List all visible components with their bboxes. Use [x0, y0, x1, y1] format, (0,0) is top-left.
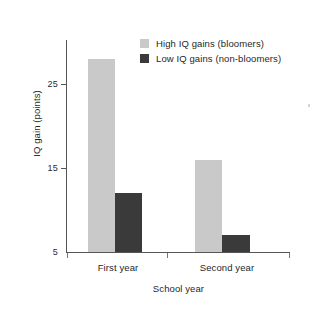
x-category-label-first-year: First year — [78, 262, 158, 273]
x-tick-right — [289, 253, 290, 258]
x-axis-line — [66, 252, 290, 253]
bar-first-year-low-iq-gains — [115, 193, 142, 252]
y-tick-label-5: 5 — [18, 247, 58, 257]
bar-second-year-high-iq-gains — [195, 160, 222, 252]
x-tick-left — [67, 253, 68, 258]
x-axis-title: School year — [67, 283, 290, 294]
x-category-label-second-year: Second year — [184, 262, 270, 273]
bar-first-year-high-iq-gains — [88, 59, 115, 252]
bar-chart: High IQ gains (bloomers) Low IQ gains (n… — [0, 0, 318, 322]
x-tick-middle — [167, 253, 168, 258]
plot-area — [67, 40, 290, 252]
bar-second-year-low-iq-gains — [222, 235, 250, 252]
image-speck — [308, 104, 310, 107]
y-axis-title: IQ gain (points) — [31, 64, 42, 184]
